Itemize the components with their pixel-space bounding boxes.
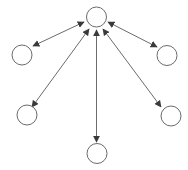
node-hub [87, 7, 107, 27]
node-lower-left [17, 105, 37, 125]
node-right [157, 46, 177, 66]
node-bottom [87, 144, 107, 164]
edge-hub-left [33, 22, 84, 46]
edge-hub-lower-right [103, 29, 161, 107]
node-left [12, 45, 32, 65]
edge-hub-lower-left [32, 29, 89, 107]
edge-hub-right [108, 22, 157, 47]
star-network-diagram [0, 0, 188, 170]
edges-group [32, 22, 161, 142]
node-lower-right [161, 106, 181, 126]
